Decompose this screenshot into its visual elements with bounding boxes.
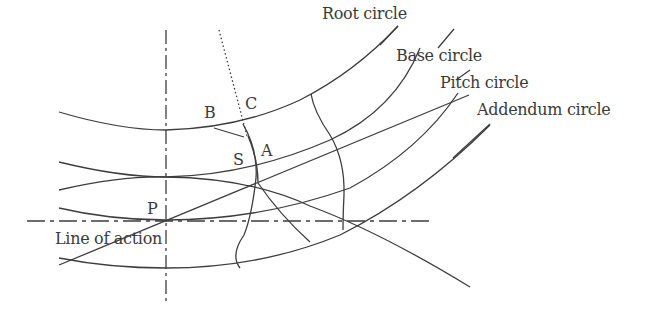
mating-involute xyxy=(258,183,310,242)
tooth-profile-left xyxy=(236,124,256,268)
diagram-lines xyxy=(0,0,657,320)
gear-diagram: Root circle Base circle Pitch circle Add… xyxy=(0,0,657,320)
point-P-label: P xyxy=(147,201,157,217)
point-S-label: S xyxy=(233,152,244,168)
base-circle-label: Base circle xyxy=(396,48,482,64)
point-C-label: C xyxy=(245,96,257,112)
line-of-action-label: Line of action xyxy=(55,231,162,247)
addendum-circle-label: Addendum circle xyxy=(477,102,610,118)
point-B-label: B xyxy=(204,105,215,121)
root-circle-label: Root circle xyxy=(322,6,407,22)
root-circle-arc xyxy=(59,26,398,130)
B-line xyxy=(214,128,244,137)
addendum-leader xyxy=(453,124,490,158)
root-leader xyxy=(380,26,398,45)
point-A-label: A xyxy=(261,143,272,159)
pitch-circle-label: Pitch circle xyxy=(440,75,528,91)
tooth-profile-right xyxy=(311,94,344,230)
